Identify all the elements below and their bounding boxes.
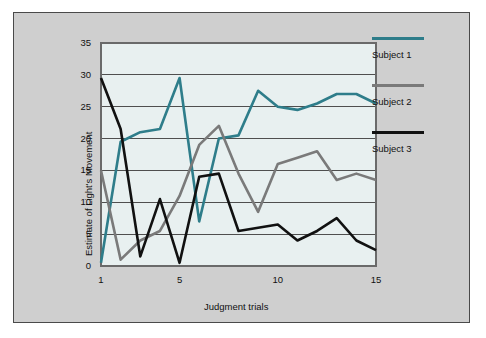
x-tick-label: 5 (165, 274, 195, 285)
y-tick-label: 20 (59, 133, 91, 144)
legend-swatch-subject-2 (372, 84, 424, 87)
y-tick-label: 35 (59, 37, 91, 48)
legend-label-subject-1: Subject 1 (372, 49, 412, 60)
figure-container: Estimate of Light's Movement Judgment tr… (0, 0, 486, 338)
chart-frame: Estimate of Light's Movement Judgment tr… (13, 12, 470, 323)
y-tick-label: 5 (59, 228, 91, 239)
x-axis-title: Judgment trials (204, 301, 268, 312)
legend-swatch-subject-1 (372, 37, 424, 40)
y-tick-label: 0 (59, 260, 91, 271)
x-tick-label: 15 (361, 274, 391, 285)
x-tick-label: 10 (263, 274, 293, 285)
y-tick-label: 10 (59, 196, 91, 207)
legend-label-subject-3: Subject 3 (372, 143, 412, 154)
y-tick-label: 25 (59, 101, 91, 112)
y-tick-label: 15 (59, 164, 91, 175)
y-tick-label: 30 (59, 69, 91, 80)
plot-background (101, 43, 376, 266)
legend-swatch-subject-3 (372, 131, 424, 134)
x-tick-label: 1 (86, 274, 116, 285)
legend-label-subject-2: Subject 2 (372, 96, 412, 107)
